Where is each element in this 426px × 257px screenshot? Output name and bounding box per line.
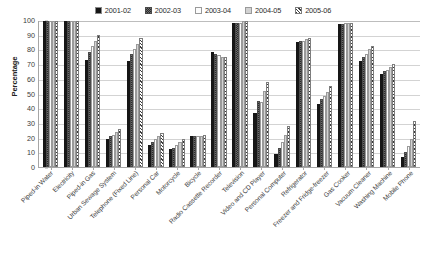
- bar-group: [82, 21, 103, 167]
- bar-chart: 2001-022002-032003-042004-052005-06 Perc…: [0, 0, 426, 257]
- bar[interactable]: [118, 129, 121, 167]
- bar-groups: [39, 21, 420, 167]
- legend-label: 2005-06: [305, 6, 331, 15]
- bar[interactable]: [55, 21, 58, 167]
- y-axis-tick-label: 60: [10, 76, 35, 83]
- legend-swatch-icon: [295, 7, 302, 14]
- bar[interactable]: [160, 133, 163, 167]
- bar[interactable]: [329, 86, 332, 167]
- bar[interactable]: [371, 46, 374, 167]
- y-axis-tick-label: 90: [10, 32, 35, 39]
- bar-group: [356, 21, 377, 167]
- bar[interactable]: [266, 82, 269, 167]
- bar[interactable]: [287, 126, 290, 167]
- plot-area: [38, 21, 420, 168]
- bar-group: [335, 21, 356, 167]
- legend-item[interactable]: 2004-05: [245, 4, 281, 17]
- bar[interactable]: [97, 35, 100, 167]
- bar-group: [40, 21, 61, 167]
- bar[interactable]: [308, 38, 311, 167]
- bar-group: [377, 21, 398, 167]
- bar[interactable]: [413, 121, 416, 167]
- bar-group: [251, 21, 272, 167]
- y-axis-tick-label: 0: [10, 164, 35, 171]
- legend-item[interactable]: 2001-02: [95, 4, 131, 17]
- bar-group: [145, 21, 166, 167]
- legend-swatch-icon: [195, 7, 202, 14]
- bar-group: [209, 21, 230, 167]
- y-axis-tick-label: 30: [10, 120, 35, 127]
- legend-item[interactable]: 2002-03: [145, 4, 181, 17]
- bar-group: [124, 21, 145, 167]
- legend-swatch-icon: [145, 7, 152, 14]
- bar-group: [272, 21, 293, 167]
- legend-label: 2003-04: [205, 6, 231, 15]
- bar[interactable]: [139, 38, 142, 167]
- legend-item[interactable]: 2005-06: [295, 4, 331, 17]
- bar-group: [230, 21, 251, 167]
- bar[interactable]: [245, 21, 248, 167]
- x-axis-tick-labels: Piped-in WaterElectricityPiped-in GasUrb…: [38, 170, 420, 257]
- bar[interactable]: [182, 139, 185, 167]
- legend-label: 2004-05: [255, 6, 281, 15]
- legend-item[interactable]: 2003-04: [195, 4, 231, 17]
- y-axis-tick-label: 10: [10, 150, 35, 157]
- bar-group: [293, 21, 314, 167]
- bar-group: [187, 21, 208, 167]
- legend-label: 2001-02: [105, 6, 131, 15]
- chart-legend: 2001-022002-032003-042004-052005-06: [0, 4, 426, 17]
- legend-swatch-icon: [245, 7, 252, 14]
- legend-swatch-icon: [95, 7, 102, 14]
- bar-group: [314, 21, 335, 167]
- bar[interactable]: [350, 23, 353, 167]
- y-axis-tick-label: 50: [10, 91, 35, 98]
- bar-group: [103, 21, 124, 167]
- bar-group: [398, 21, 419, 167]
- bar[interactable]: [203, 135, 206, 167]
- y-axis-tick-label: 70: [10, 61, 35, 68]
- legend-label: 2002-03: [155, 6, 181, 15]
- y-axis-tick-label: 80: [10, 47, 35, 54]
- y-axis-tick-label: 40: [10, 106, 35, 113]
- y-axis-tick-label: 20: [10, 135, 35, 142]
- bar[interactable]: [224, 57, 227, 167]
- bar-group: [166, 21, 187, 167]
- bar-group: [61, 21, 82, 167]
- bar[interactable]: [76, 21, 79, 167]
- bar[interactable]: [392, 64, 395, 167]
- y-axis-tick-label: 100: [10, 17, 35, 24]
- y-axis-tick-labels: 0102030405060708090100: [10, 21, 35, 168]
